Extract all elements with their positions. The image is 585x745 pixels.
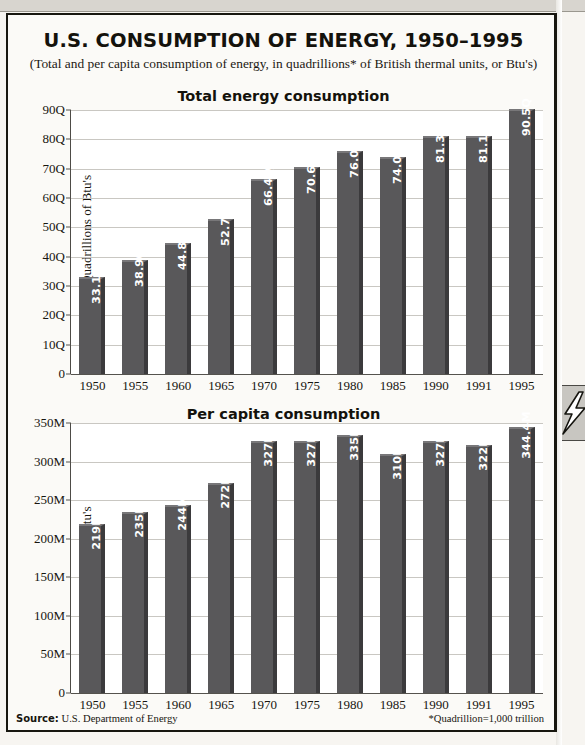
bar-percapita-1991: 322M bbox=[466, 445, 492, 693]
y-axis-tick-mark bbox=[66, 227, 71, 228]
x-axis-tick-label: 1991 bbox=[466, 378, 492, 394]
y-axis-tick-label: 10Q bbox=[43, 337, 65, 353]
bar-total-1960: 44.8Q bbox=[165, 243, 191, 374]
x-axis-tick-label: 1960 bbox=[165, 378, 191, 394]
bar-total-1985: 74.0Q bbox=[380, 157, 406, 374]
y-axis-tick-mark bbox=[66, 344, 71, 345]
x-axis-tick-label: 1985 bbox=[380, 697, 406, 713]
page-subtitle: (Total and per capita consumption of ene… bbox=[16, 56, 551, 72]
y-axis-tick-label: 200M bbox=[34, 531, 65, 547]
footnote: *Quadrillion=1,000 trillion bbox=[429, 713, 544, 724]
y-axis-tick-label: 0 bbox=[59, 366, 66, 382]
x-axis-tick-label: 1975 bbox=[294, 378, 320, 394]
chart-total-energy-consumption: Total energy consumption Quadrillions of… bbox=[8, 77, 559, 392]
y-axis-tick-label: 50M bbox=[40, 646, 65, 662]
bar-value-label: 66.4Q bbox=[262, 168, 275, 206]
plot-area-percapita: Mllions of Btu's 050M100M150M200M250M300… bbox=[70, 423, 543, 693]
bar-percapita-1995: 344.4M bbox=[509, 427, 535, 693]
bar-value-label: 272M bbox=[219, 474, 232, 509]
bar-percapita-1980: 335M bbox=[337, 435, 363, 693]
gridline bbox=[71, 110, 543, 111]
scan-top-edge bbox=[0, 0, 585, 12]
chart-per-capita-consumption: Per capita consumption Mllions of Btu's … bbox=[8, 395, 559, 707]
x-axis-tick-label: 1985 bbox=[380, 378, 406, 394]
bar-value-label: 327M bbox=[262, 431, 275, 466]
x-axis-tick-label: 1965 bbox=[208, 378, 234, 394]
bar-value-label: 70.6Q bbox=[305, 156, 318, 194]
x-axis-tick-label: 1950 bbox=[79, 378, 105, 394]
bar-value-label: 327M bbox=[434, 431, 447, 466]
bar-value-label: 327M bbox=[305, 431, 318, 466]
chart-title-total: Total energy consumption bbox=[8, 88, 559, 104]
page-title: U.S. CONSUMPTION OF ENERGY, 1950–1995 bbox=[16, 29, 551, 52]
bar-value-label: 235M bbox=[133, 502, 146, 537]
bar-value-label: 81.3Q bbox=[434, 124, 447, 162]
source-value: U.S. Department of Energy bbox=[62, 713, 178, 724]
y-axis-tick-mark bbox=[66, 198, 71, 199]
y-axis-tick-mark bbox=[66, 256, 71, 257]
y-axis-tick-label: 40Q bbox=[43, 249, 65, 265]
bar-value-label: 74.0Q bbox=[391, 146, 404, 184]
x-axis-tick-label: 1965 bbox=[208, 697, 234, 713]
bar-percapita-1985: 310M bbox=[380, 454, 406, 693]
x-axis-tick-label: 1995 bbox=[509, 378, 535, 394]
page-frame: U.S. CONSUMPTION OF ENERGY, 1950–1995 (T… bbox=[6, 13, 557, 732]
y-axis-tick-mark bbox=[66, 693, 71, 694]
y-axis-tick-mark bbox=[66, 500, 71, 501]
bar-value-label: 76.0Q bbox=[348, 140, 361, 178]
bar-value-label: 81.1Q bbox=[477, 125, 490, 163]
y-axis-tick-label: 150M bbox=[34, 569, 65, 585]
bar-value-label: 52.7Q bbox=[219, 208, 232, 246]
y-axis-tick-label: 70Q bbox=[43, 161, 65, 177]
bar-percapita-1955: 235M bbox=[122, 512, 148, 693]
bar-total-1970: 66.4Q bbox=[251, 179, 277, 374]
bar-total-1950: 33.1Q bbox=[79, 277, 105, 374]
x-axis-tick-label: 1975 bbox=[294, 697, 320, 713]
y-axis-tick-label: 50Q bbox=[43, 219, 65, 235]
x-axis-tick-label: 1995 bbox=[509, 697, 535, 713]
bar-total-1980: 76.0Q bbox=[337, 151, 363, 374]
x-axis-tick-label: 1970 bbox=[251, 697, 277, 713]
bar-total-1991: 81.1Q bbox=[466, 136, 492, 374]
bar-value-label: 38.9Q bbox=[133, 249, 146, 287]
y-axis-tick-mark bbox=[66, 139, 71, 140]
y-axis-tick-label: 250M bbox=[34, 492, 65, 508]
y-axis-tick-mark bbox=[66, 423, 71, 424]
x-axis-tick-label: 1955 bbox=[122, 697, 148, 713]
y-axis-tick-mark bbox=[66, 374, 71, 375]
chart-title-percapita: Per capita consumption bbox=[8, 406, 559, 422]
y-axis-tick-mark bbox=[66, 168, 71, 169]
bar-value-label: 322M bbox=[477, 435, 490, 470]
y-axis-tick-label: 30Q bbox=[43, 278, 65, 294]
y-axis-tick-label: 0 bbox=[59, 685, 66, 701]
bar-percapita-1965: 272M bbox=[208, 483, 234, 693]
y-axis-tick-label: 350M bbox=[34, 415, 65, 431]
x-axis-tick-label: 1980 bbox=[337, 378, 363, 394]
y-axis-tick-mark bbox=[66, 286, 71, 287]
bar-percapita-1970: 327M bbox=[251, 441, 277, 693]
y-axis-tick-label: 20Q bbox=[43, 307, 65, 323]
bar-total-1965: 52.7Q bbox=[208, 219, 234, 374]
x-axis-tick-label: 1991 bbox=[466, 697, 492, 713]
x-axis-tick-label: 1950 bbox=[79, 697, 105, 713]
y-axis-tick-label: 80Q bbox=[43, 131, 65, 147]
y-axis-tick-label: 90Q bbox=[43, 102, 65, 118]
x-axis-tick-label: 1970 bbox=[251, 378, 277, 394]
bar-total-1975: 70.6Q bbox=[294, 167, 320, 374]
bar-value-label: 44.8Q bbox=[176, 232, 189, 270]
bar-percapita-1975: 327M bbox=[294, 441, 320, 693]
y-axis-tick-mark bbox=[66, 615, 71, 616]
y-axis-tick-label: 300M bbox=[34, 454, 65, 470]
y-axis-tick-mark bbox=[66, 577, 71, 578]
y-axis-tick-label: 60Q bbox=[43, 190, 65, 206]
x-axis-tick-label: 1980 bbox=[337, 697, 363, 713]
bar-total-1955: 38.9Q bbox=[122, 260, 148, 374]
lightning-bolt-tab bbox=[562, 385, 585, 441]
page-background: U.S. CONSUMPTION OF ENERGY, 1950–1995 (T… bbox=[0, 0, 585, 745]
y-axis-tick-mark bbox=[66, 538, 71, 539]
source-note: Source: U.S. Department of Energy bbox=[16, 713, 178, 724]
x-axis-tick-label: 1990 bbox=[423, 697, 449, 713]
bar-total-1995: 90.5Q bbox=[509, 109, 535, 374]
bar-percapita-1960: 244M bbox=[165, 505, 191, 693]
bar-value-label: 335M bbox=[348, 425, 361, 460]
